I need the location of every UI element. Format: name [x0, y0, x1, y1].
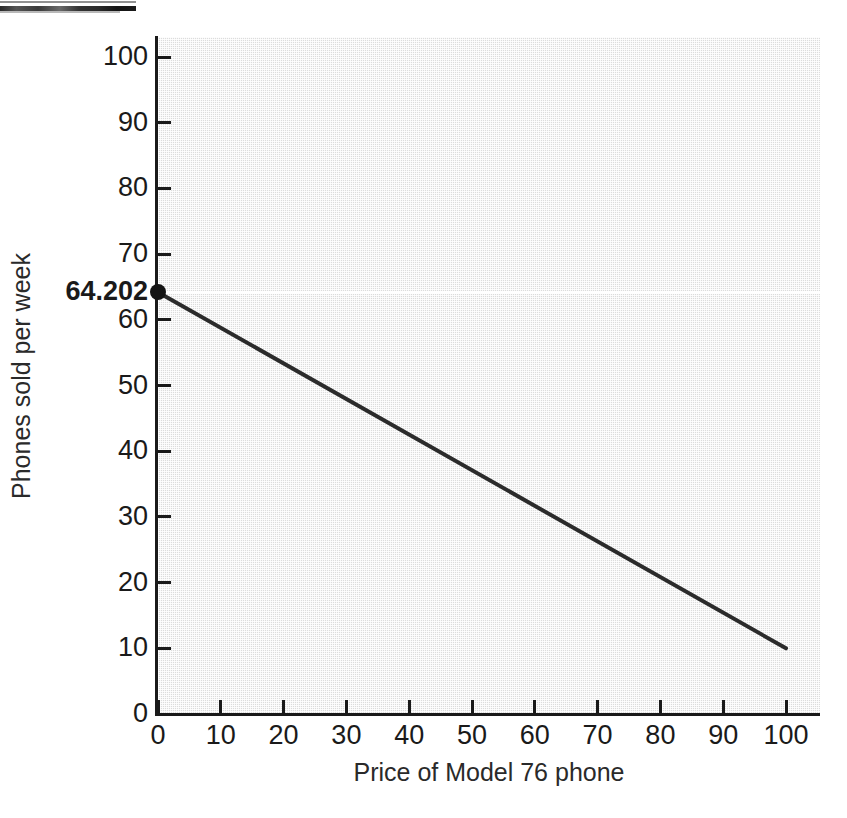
y-tick-label-text: 20 — [118, 569, 148, 596]
y-tick-80 — [158, 187, 171, 190]
y-tick-label-text: 80 — [118, 174, 148, 201]
x-tick-60 — [533, 700, 536, 714]
x-axis-spine — [155, 713, 820, 716]
y-tick-label-text: 50 — [118, 372, 148, 399]
y-tick-label-text: 60 — [118, 306, 148, 333]
y-tick-50 — [158, 384, 171, 387]
plot-area — [158, 37, 820, 714]
x-tick-70 — [596, 700, 599, 714]
y-tick-70 — [158, 253, 171, 256]
intercept-gridline — [158, 291, 820, 294]
y-tick-label-text: 90 — [118, 109, 148, 136]
y-tick-label-text: 30 — [118, 503, 148, 530]
y-tick-10 — [158, 647, 171, 650]
x-tick-30 — [345, 700, 348, 714]
y-axis-spine — [155, 36, 158, 716]
y-axis-title: Phones sold per week — [1, 38, 41, 715]
y-tick-0 — [158, 713, 171, 716]
y-tick-label-text: 100 — [103, 43, 148, 70]
x-tick-10 — [219, 700, 222, 714]
x-tick-50 — [471, 700, 474, 714]
y-tick-label-text: 70 — [118, 240, 148, 267]
x-tick-20 — [282, 700, 285, 714]
intercept-value-text: 64.202 — [65, 278, 148, 305]
x-tick-90 — [722, 700, 725, 714]
intercept-marker-dot — [150, 284, 166, 300]
y-tick-40 — [158, 450, 171, 453]
x-tick-100 — [785, 700, 788, 714]
y-tick-label-text: 40 — [118, 437, 148, 464]
x-tick-label-100: 100 — [736, 722, 836, 749]
demand-curve-chart: 010203040506070809010064.202 01020304050… — [0, 0, 847, 818]
y-tick-label-text: 10 — [118, 634, 148, 661]
y-tick-20 — [158, 581, 171, 584]
x-tick-0 — [157, 700, 160, 714]
x-tick-40 — [408, 700, 411, 714]
x-axis-title: Price of Model 76 phone — [158, 757, 820, 787]
y-tick-100 — [158, 56, 171, 59]
x-tick-80 — [659, 700, 662, 714]
y-tick-90 — [158, 121, 171, 124]
y-tick-30 — [158, 515, 171, 518]
y-tick-60 — [158, 318, 171, 321]
